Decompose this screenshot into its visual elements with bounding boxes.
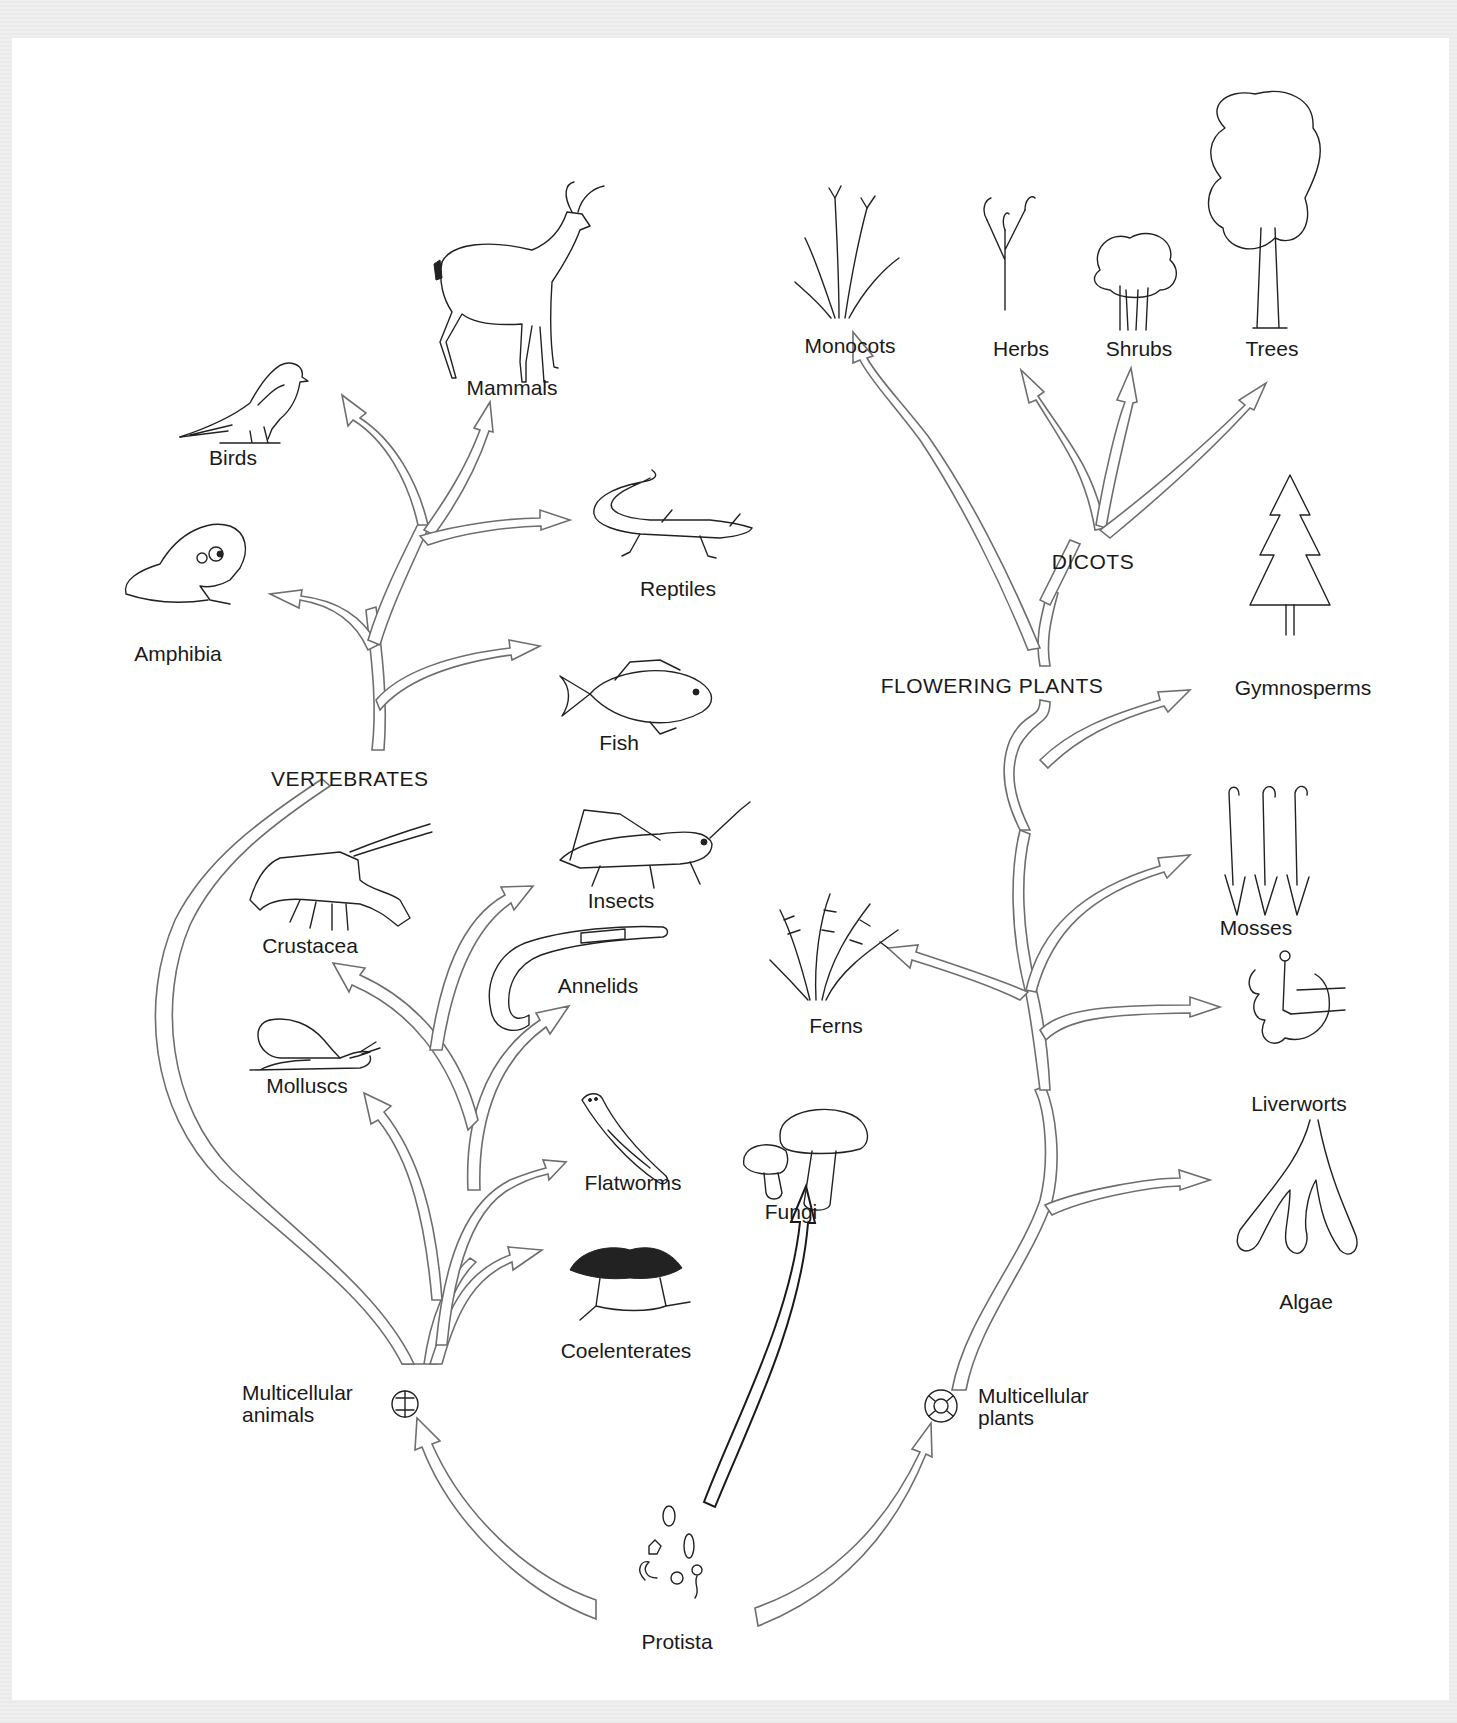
label-fungi: Fungi [765, 1200, 818, 1224]
branch-to-vertebrates [155, 779, 414, 1364]
arrow-to-insects [430, 886, 533, 1050]
label-multicellular-plants-line1: Multicellular [978, 1385, 1089, 1407]
label-flowering-plants: FLOWERING PLANTS [881, 674, 1104, 698]
label-vertebrates: VERTEBRATES [271, 767, 429, 791]
arrow-to-ferns [888, 945, 1028, 1000]
label-dicots: DICOTS [1052, 550, 1134, 574]
bird-illustration [180, 363, 308, 443]
arrow-protista-to-fungi [704, 1186, 815, 1507]
arrow-to-amphibia [270, 590, 378, 650]
fern-illustration [770, 894, 898, 1000]
label-gymnosperms: Gymnosperms [1235, 676, 1372, 700]
monocot-illustration [795, 186, 899, 318]
antelope-illustration [434, 182, 604, 382]
label-monocots: Monocots [804, 334, 895, 358]
tree-illustration [1209, 92, 1321, 328]
lizard-illustration [594, 470, 752, 558]
arrow-to-mosses [1026, 855, 1190, 992]
arrow-to-molluscs [364, 1093, 442, 1300]
liverwort-illustration [1249, 951, 1345, 1043]
label-birds: Birds [209, 446, 257, 470]
arrow-protista-to-plants [755, 1423, 932, 1626]
frog-illustration [125, 524, 245, 604]
plant-main-stem [952, 1086, 1057, 1390]
label-flatworms: Flatworms [585, 1171, 682, 1195]
label-insects: Insects [588, 889, 655, 913]
label-annelids: Annelids [558, 974, 639, 998]
label-mammals: Mammals [466, 376, 557, 400]
label-multicellular-animals-line2: animals [242, 1404, 353, 1426]
protista-cells-illustration [640, 1506, 702, 1598]
label-herbs: Herbs [993, 337, 1049, 361]
arrow-protista-to-animals [415, 1418, 596, 1619]
arrow-to-shrubs [1096, 368, 1137, 528]
mushroom-illustration [744, 1109, 868, 1210]
label-crustacea: Crustacea [262, 934, 358, 958]
arrow-to-gymnosperms [1040, 690, 1190, 768]
sea-anemone-illustration [570, 1248, 690, 1320]
label-amphibia: Amphibia [134, 642, 222, 666]
label-mosses: Mosses [1220, 916, 1292, 940]
plant-upper-stem [1004, 700, 1050, 830]
algae-illustration [1237, 1120, 1357, 1254]
animal-cell-cluster-icon [392, 1391, 418, 1417]
label-protista: Protista [641, 1630, 712, 1654]
arrow-to-birds [342, 395, 428, 525]
label-trees: Trees [1246, 337, 1299, 361]
plant-cell-cluster-icon [925, 1390, 957, 1422]
fish-illustration [560, 660, 712, 734]
label-molluscs: Molluscs [266, 1074, 348, 1098]
grasshopper-illustration [560, 802, 750, 888]
moss-illustration [1225, 786, 1309, 915]
evolution-tree-diagram [0, 0, 1457, 1723]
crayfish-illustration [250, 824, 432, 930]
label-multicellular-animals: Multicellular animals [242, 1382, 353, 1426]
label-fish: Fish [599, 731, 639, 755]
label-shrubs: Shrubs [1106, 337, 1173, 361]
label-reptiles: Reptiles [640, 577, 716, 601]
spruce-illustration [1250, 475, 1330, 635]
label-algae: Algae [1279, 1290, 1333, 1314]
label-liverworts: Liverworts [1251, 1092, 1347, 1116]
label-multicellular-plants: Multicellular plants [978, 1385, 1089, 1429]
arrow-to-fish [376, 640, 540, 710]
label-multicellular-animals-line1: Multicellular [242, 1382, 353, 1404]
arrow-to-herbs [1021, 370, 1105, 530]
arrow-to-mammals [424, 402, 493, 535]
herb-illustration [984, 197, 1035, 310]
label-coelenterates: Coelenterates [561, 1339, 692, 1363]
label-multicellular-plants-line2: plants [978, 1407, 1089, 1429]
snail-illustration [250, 1019, 380, 1070]
arrow-to-liverworts [1040, 997, 1220, 1040]
shrub-illustration [1095, 234, 1177, 330]
label-ferns: Ferns [809, 1014, 863, 1038]
vertebrate-upper-trunk [368, 520, 430, 645]
arrow-to-monocots [853, 332, 1040, 650]
arrow-to-algae [1045, 1170, 1210, 1215]
